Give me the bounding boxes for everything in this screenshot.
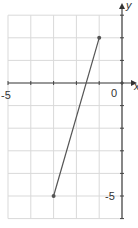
line-chart: -5 0 -5 y x <box>0 0 138 228</box>
y-tick-label-min: -5 <box>105 190 115 202</box>
axes <box>8 3 137 219</box>
x-tick-label-min: -5 <box>1 89 11 101</box>
data-point <box>52 194 56 198</box>
y-axis-arrow-icon <box>119 3 125 9</box>
origin-label: 0 <box>111 87 117 99</box>
grid <box>8 15 122 218</box>
x-axis-label: x <box>133 80 138 92</box>
y-axis-label: y <box>125 0 133 11</box>
data-point <box>97 36 101 40</box>
